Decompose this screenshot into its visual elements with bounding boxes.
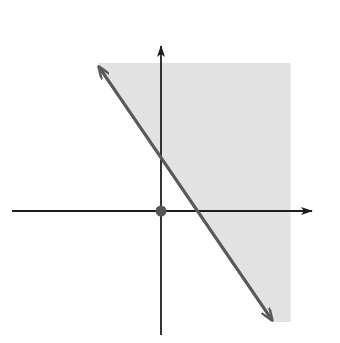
- shaded-region: [98, 63, 291, 322]
- test-point: [156, 206, 167, 217]
- inequality-graph: [0, 0, 340, 343]
